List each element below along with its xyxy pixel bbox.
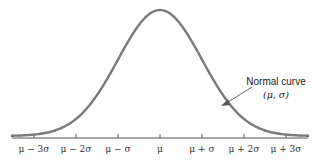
annotation: Normal curve (μ, σ) — [221, 76, 306, 106]
x-tick-labels: μ − 3σμ − 2σμ − σμμ + σμ + 2σμ + 3σ — [19, 144, 302, 154]
x-tick-label: μ − 2σ — [61, 144, 92, 154]
x-tick-label: μ + 3σ — [271, 144, 302, 154]
x-tick-label: μ − σ — [105, 144, 130, 154]
x-tick-label: μ — [157, 144, 163, 154]
annotation-arrow — [225, 87, 252, 104]
x-ticks — [34, 134, 286, 138]
x-tick-label: μ + σ — [189, 144, 214, 154]
annotation-params: (μ, σ) — [263, 89, 289, 100]
x-tick-label: μ + 2σ — [229, 144, 260, 154]
normal-curve — [11, 10, 309, 136]
annotation-title: Normal curve — [246, 76, 306, 87]
normal-curve-chart: Normal curve (μ, σ) μ − 3σμ − 2σμ − σμμ … — [0, 0, 319, 162]
x-tick-label: μ − 3σ — [19, 144, 50, 154]
